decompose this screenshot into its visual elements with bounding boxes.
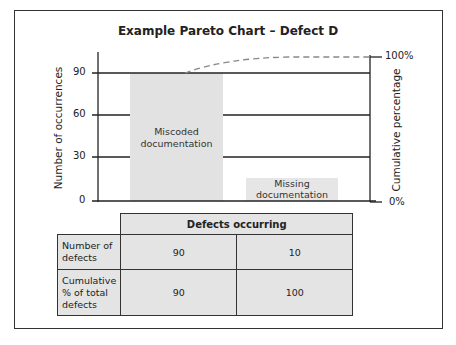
cumulative-line	[185, 57, 370, 73]
left-axis-label: Number of occurrences	[52, 67, 64, 190]
row-label: Number of defects	[58, 235, 121, 270]
cell-value: 10	[237, 235, 353, 270]
bar-label-missing: Missing documentation	[246, 178, 338, 200]
left-tick-0: 0	[79, 194, 85, 205]
bar-label-miscoded: Miscoded documentation	[130, 126, 223, 150]
left-tick-90: 90	[73, 66, 86, 77]
defects-table: Defects occurring Number of defects 90 1…	[57, 213, 353, 316]
cell-value: 100	[237, 270, 353, 316]
right-tick-0: 0%	[389, 196, 405, 207]
table-row-cumulative: Cumulative % of total defects 90 100	[58, 270, 353, 316]
left-tick-60: 60	[73, 108, 86, 119]
right-axis-label: Cumulative percentage	[390, 68, 402, 191]
right-tick-100: 100%	[385, 50, 414, 61]
table-header: Defects occurring	[121, 214, 353, 235]
cell-value: 90	[121, 270, 237, 316]
cell-value: 90	[121, 235, 237, 270]
table-row-number-of-defects: Number of defects 90 10	[58, 235, 353, 270]
row-label: Cumulative % of total defects	[58, 270, 121, 316]
left-tick-30: 30	[73, 150, 86, 161]
